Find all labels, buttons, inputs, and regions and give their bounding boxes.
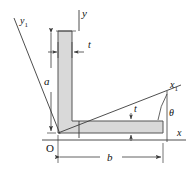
angle-section-shape [58,31,163,133]
theta-arc [158,94,167,120]
dimension-a-label: a [44,75,50,87]
dimension-b-group: b [58,135,163,163]
y1-axis-group: y1 [14,15,60,134]
y-axis-group: y [79,7,87,138]
t-vertical-label: t [88,39,91,50]
t-horizontal-label: t [134,103,137,114]
l-section-outline [58,31,163,133]
x1-axis-label: x1 [169,79,178,93]
x-axis-label: x [176,127,182,138]
figure-svg: y x y1 x1 θ a [0,0,193,173]
dimension-b-label: b [107,151,113,163]
y1-axis-line [14,18,60,134]
theta-angle-group: θ [158,91,174,142]
y-axis-label: y [81,7,87,19]
origin-label: O [46,142,54,154]
angle-section-figure: y x y1 x1 θ a [0,0,193,173]
y1-axis-label: y1 [19,15,28,29]
theta-label: θ [169,107,174,118]
